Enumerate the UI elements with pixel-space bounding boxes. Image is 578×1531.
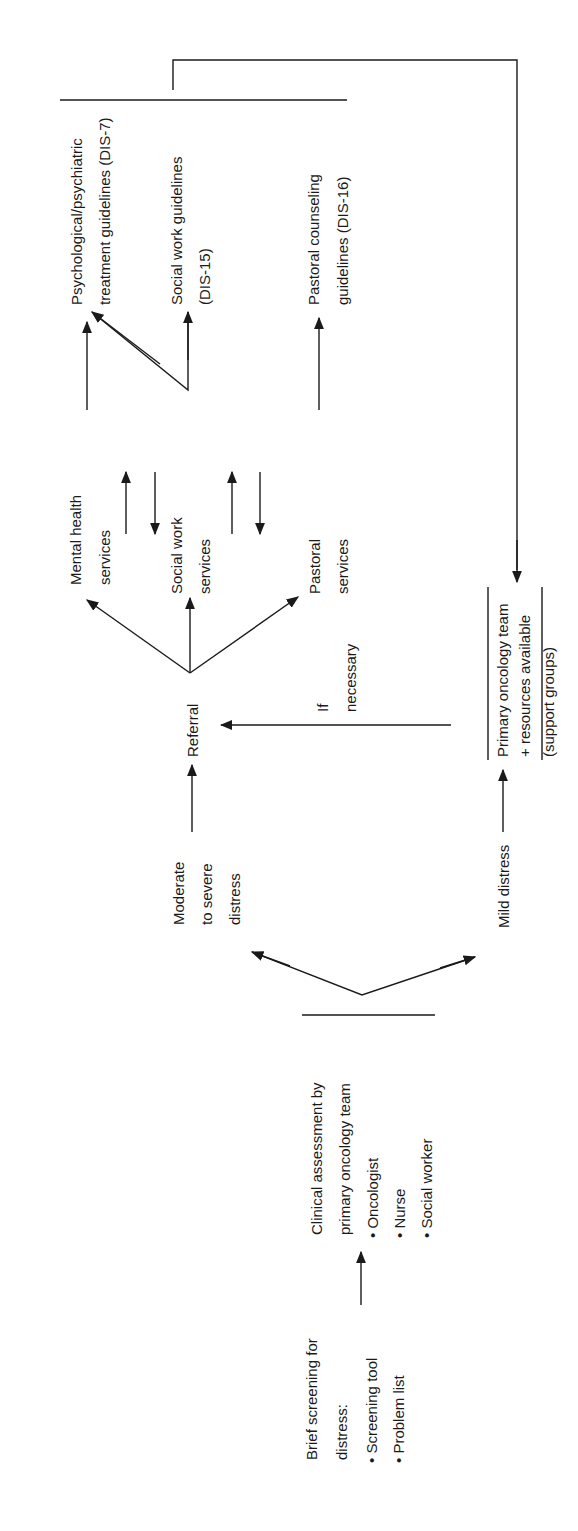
assessment-bullet-1: • Oncologist [364,1157,381,1238]
node-clinical-assessment: Clinical assessment by primary oncology … [308,1082,435,1238]
screening-bullet-2: • Problem list [390,1374,407,1463]
social-work-line-2: services [196,539,213,594]
arrow-referral-to-mental-health [87,600,190,673]
primary-team-line-2: + resources available [516,615,533,757]
social-work-line-1: Social work [168,517,185,594]
split-lines [252,952,475,995]
feedback-line [173,60,517,570]
arrow-referral-to-pastoral [190,597,298,673]
node-mild-distress: Mild distress [495,845,512,928]
screening-title-line-2: distress: [333,1404,350,1460]
node-brief-screening: Brief screening for distress: • Screenin… [303,1338,407,1463]
sw-guidelines-line-2: (DIS-15) [196,248,213,305]
node-psych-guidelines: Psychological/psychiatric treatment guid… [68,117,113,305]
node-social-work-services: Social work services [168,517,213,594]
assessment-title-line-1: Clinical assessment by [308,1082,325,1235]
assessment-bullet-2: • Nurse [391,1189,408,1238]
pastoral-guidelines-line-1: Pastoral counseling [305,174,322,305]
arrow-to-mild [440,957,475,968]
mental-health-line-1: Mental health [67,495,84,585]
psych-guidelines-line-1: Psychological/psychiatric [68,138,85,305]
pastoral-line-2: services [334,539,351,594]
mental-health-line-2: services [96,530,113,585]
node-pastoral-services: Pastoral services [306,539,351,594]
if-necessary-line-1: If [314,703,331,712]
pastoral-guidelines-line-2: guidelines (DIS-16) [334,177,351,305]
primary-team-line-1: Primary oncology team [494,604,511,757]
assessment-bullet-3: • Social worker [418,1139,435,1238]
screening-title-line-1: Brief screening for [303,1338,320,1460]
node-referral: Referral [184,704,201,757]
node-primary-oncology-team: Primary oncology team + resources availa… [494,604,557,757]
primary-team-line-3: (support groups) [540,647,557,757]
pastoral-line-1: Pastoral [306,539,323,594]
distress-management-flowchart: Brief screening for distress: • Screenin… [0,0,578,1531]
arrow-to-moderate [252,952,290,966]
arrow-social-work-to-psych-guidelines [92,312,160,364]
node-sw-guidelines: Social work guidelines (DIS-15) [168,157,213,305]
node-mental-health-services: Mental health services [67,495,113,585]
node-pastoral-guidelines: Pastoral counseling guidelines (DIS-16) [305,174,351,305]
assessment-title-line-2: primary oncology team [336,1083,353,1235]
moderate-line-3: distress [226,873,243,925]
moderate-line-1: Moderate [170,862,187,925]
if-necessary-line-2: necessary [342,643,359,712]
psych-guidelines-line-2: treatment guidelines (DIS-7) [96,117,113,305]
sw-guidelines-line-1: Social work guidelines [168,157,185,305]
node-moderate-severe: Moderate to severe distress [170,862,243,925]
screening-bullet-1: • Screening tool [363,1358,380,1463]
moderate-line-2: to severe [198,863,215,925]
